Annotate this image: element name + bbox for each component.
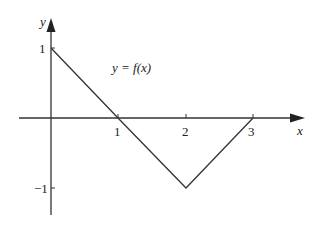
x-tick-label-1: 1: [114, 124, 121, 139]
x-tick-label-2: 2: [182, 124, 189, 139]
x-axis-arrow-icon: [290, 114, 305, 123]
x-tick-label-3: 3: [248, 124, 255, 139]
curve-annotation: y = f(x): [110, 60, 151, 75]
function-graph: y x 1 −1 1 2 3 y = f(x): [0, 0, 315, 226]
y-tick-label-minus1: −1: [34, 181, 48, 196]
x-axis-label: x: [296, 123, 303, 138]
y-axis-label: y: [38, 14, 46, 29]
y-tick-label-1: 1: [39, 41, 46, 56]
y-axis-arrow-icon: [47, 18, 56, 32]
